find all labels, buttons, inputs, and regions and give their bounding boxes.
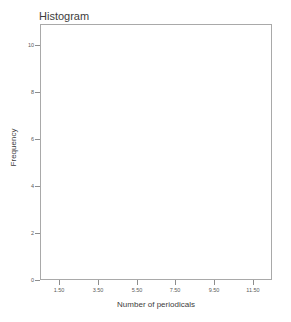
y-axis-tick: [35, 233, 40, 234]
x-axis-tick-label-wrap: 3.50: [78, 286, 118, 294]
x-axis-tick: [137, 280, 138, 285]
y-axis-tick: [35, 186, 40, 187]
x-axis-tick-label-wrap: 11.50: [233, 286, 273, 294]
y-axis-tick: [35, 139, 40, 140]
x-axis-tick-label: 5.50: [117, 286, 157, 294]
y-axis-tick-label: 10: [12, 42, 34, 48]
y-axis-tick-label: 2: [12, 230, 34, 236]
y-axis-tick-label: 4: [12, 183, 34, 189]
x-axis-tick: [59, 280, 60, 285]
x-axis-tick-label: 1.50: [39, 286, 79, 294]
y-axis-tick-label: 0: [12, 277, 34, 283]
x-axis-tick-label-wrap: 7.50: [155, 286, 195, 294]
x-axis-tick: [98, 280, 99, 285]
x-axis-tick-label-wrap: 5.50: [117, 286, 157, 294]
x-axis-tick: [214, 280, 215, 285]
x-axis-tick-label: 11.50: [233, 286, 273, 294]
y-axis: Frequency 1086420: [0, 0, 291, 322]
y-axis-tick-label-wrap: 0: [10, 277, 34, 283]
y-axis-tick-label-wrap: 6: [10, 136, 34, 142]
y-axis-tick-label-wrap: 8: [10, 89, 34, 95]
y-axis-tick: [35, 45, 40, 46]
x-axis-tick: [253, 280, 254, 285]
x-axis-tick-label: 3.50: [78, 286, 118, 294]
y-axis-tick: [35, 92, 40, 93]
y-axis-tick-label-wrap: 2: [10, 230, 34, 236]
x-axis-tick-label-wrap: 1.50: [39, 286, 79, 294]
y-axis-tick-label: 6: [12, 136, 34, 142]
y-axis-tick-label-wrap: 10: [10, 42, 34, 48]
y-axis-title: Frequency: [9, 108, 18, 188]
x-axis-tick-label-wrap: 9.50: [194, 286, 234, 294]
x-axis-tick-label: 7.50: [155, 286, 195, 294]
y-axis-tick-label: 8: [12, 89, 34, 95]
x-axis-tick-label: 9.50: [194, 286, 234, 294]
y-axis-tick: [35, 280, 40, 281]
y-axis-tick-label-wrap: 4: [10, 183, 34, 189]
histogram-figure: Histogram Frequency 1086420 Number of pe…: [0, 0, 291, 322]
x-axis-tick: [175, 280, 176, 285]
x-axis-title: Number of periodicals: [40, 300, 272, 310]
